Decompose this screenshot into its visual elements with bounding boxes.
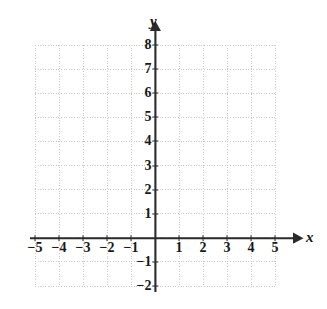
y-tick-label: 8 [123,38,151,52]
x-tick-label: 3 [215,241,239,255]
x-tick-label: −3 [71,241,95,255]
y-tick-label: −2 [123,279,151,293]
y-tick-label: 7 [123,62,151,76]
graph-canvas [0,0,327,309]
y-tick-label: 6 [123,86,151,100]
x-tick-label: −2 [95,241,119,255]
x-axis-label: x [306,230,314,245]
x-tick-label: −5 [23,241,47,255]
y-axis-label: y [150,14,157,29]
x-tick-label: −4 [47,241,71,255]
x-axis-arrowhead [293,233,304,244]
y-tick-label: 5 [123,110,151,124]
y-tick-label: −1 [123,255,151,269]
y-tick-label: 1 [123,207,151,221]
x-tick-label: 5 [263,241,287,255]
x-tick-label: 2 [191,241,215,255]
x-tick-label: 1 [167,241,191,255]
coordinate-plane: −5−4−3−2−11234587654321−1−2 y x [0,0,327,309]
x-tick-label: 4 [239,241,263,255]
x-tick-label: −1 [119,241,143,255]
y-tick-label: 3 [123,159,151,173]
y-tick-label: 2 [123,183,151,197]
y-tick-label: 4 [123,134,151,148]
